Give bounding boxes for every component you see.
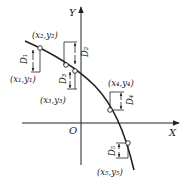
point-p3 <box>64 63 69 68</box>
d3-label: D₃ <box>58 73 68 85</box>
x-axis-label: X <box>168 127 177 138</box>
point-p4 <box>108 108 113 113</box>
point-label-p4: (x₄,y₄) <box>108 78 134 88</box>
distance-d5 <box>116 143 128 158</box>
d2-label: D₂ <box>80 46 90 58</box>
distance-d4 <box>110 92 124 110</box>
diagram-svg: Y X O D₁ D₂ D₃ D₄ D <box>0 0 190 186</box>
point-label-p5: (x₅,y₅) <box>97 167 123 177</box>
diagram-canvas: Y X O D₁ D₂ D₃ D₄ D <box>0 0 190 186</box>
point-label-p2: (x₂,y₂) <box>32 30 58 40</box>
point-label-p3: (x₃,y₃) <box>40 95 66 105</box>
d5-label: D₅ <box>107 145 117 157</box>
d4-label: D₄ <box>125 94 135 106</box>
point-label-p1: (x₁,y₁) <box>10 74 36 84</box>
fitted-curve <box>25 41 134 170</box>
point-p3b <box>73 69 78 74</box>
origin-label: O <box>69 125 77 136</box>
d1-label: D₁ <box>19 54 29 65</box>
point-p5 <box>126 141 131 146</box>
distance-d2 <box>64 42 77 65</box>
y-axis-label: Y <box>69 7 77 18</box>
distance-d1 <box>31 48 40 72</box>
point-p2 <box>38 46 43 51</box>
